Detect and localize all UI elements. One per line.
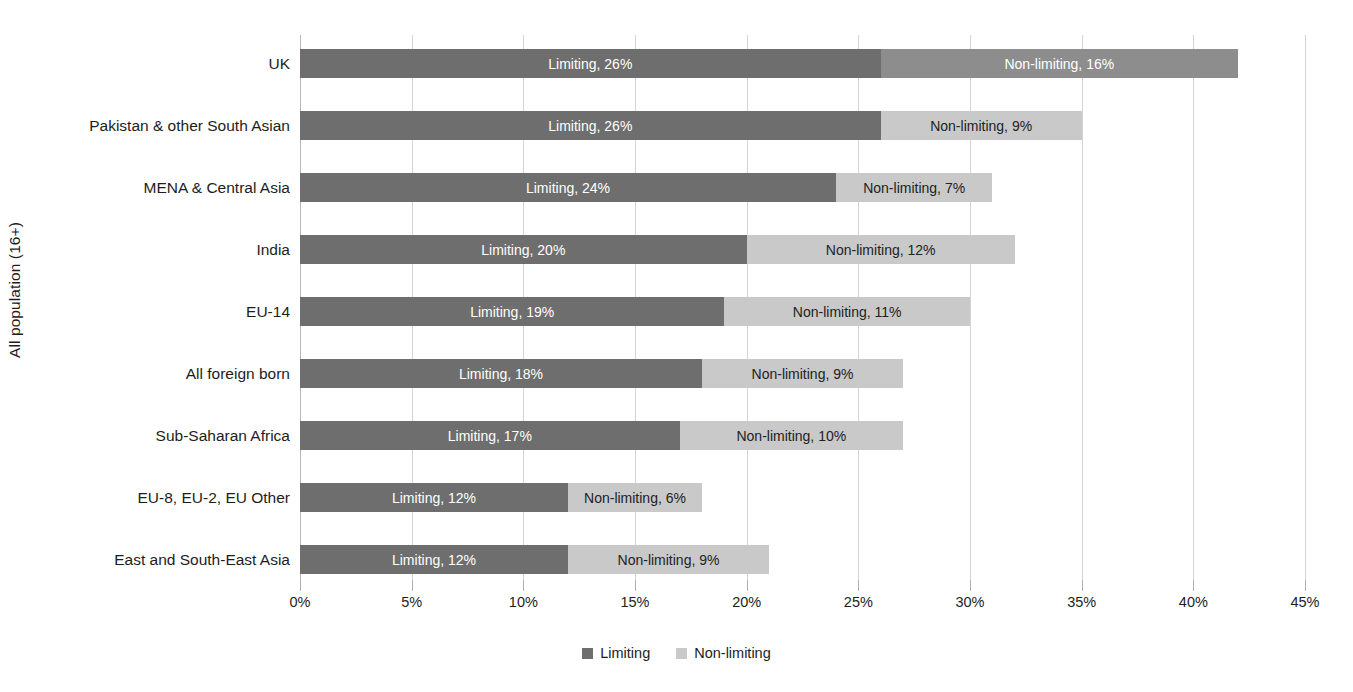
bar-segment-limiting[interactable]: Limiting, 17%	[300, 421, 680, 450]
bar-segment-non-limiting[interactable]: Non-limiting, 11%	[724, 297, 970, 326]
bar-row: Limiting, 26%Non-limiting, 9%	[300, 111, 1305, 140]
stacked-bar-chart: All population (16+) Limiting, 26%Non-li…	[0, 0, 1353, 692]
category-label-india: India	[256, 235, 290, 264]
x-axis-tick-label: 45%	[1290, 594, 1319, 610]
bar-segment-non-limiting[interactable]: Non-limiting, 9%	[568, 545, 769, 574]
bar-segment-limiting[interactable]: Limiting, 26%	[300, 111, 881, 140]
legend-swatch-icon	[676, 648, 687, 659]
category-label-all-foreign-born: All foreign born	[186, 359, 290, 388]
category-label-sub-saharan-africa: Sub-Saharan Africa	[156, 421, 290, 450]
y-axis-title-text: All population (16+)	[6, 222, 24, 358]
x-axis-tick-label: 15%	[620, 594, 649, 610]
x-axis-tick-label: 0%	[290, 594, 311, 610]
x-axis-tick-label: 35%	[1067, 594, 1096, 610]
category-label-eu-14: EU-14	[246, 297, 290, 326]
category-label-mena-central-asia: MENA & Central Asia	[144, 173, 290, 202]
gridline	[1305, 35, 1306, 580]
x-axis-tick-label: 40%	[1179, 594, 1208, 610]
category-label-eu-8-eu-2-eu-other: EU-8, EU-2, EU Other	[138, 483, 290, 512]
x-axis-tick-label: 30%	[955, 594, 984, 610]
plot-area: Limiting, 26%Non-limiting, 16%Limiting, …	[300, 35, 1305, 580]
bar-segment-limiting[interactable]: Limiting, 19%	[300, 297, 724, 326]
bar-segment-limiting[interactable]: Limiting, 12%	[300, 545, 568, 574]
bar-row: Limiting, 24%Non-limiting, 7%	[300, 173, 1305, 202]
legend-label: Limiting	[600, 645, 650, 661]
bar-segment-non-limiting[interactable]: Non-limiting, 7%	[836, 173, 992, 202]
bar-segment-limiting[interactable]: Limiting, 20%	[300, 235, 747, 264]
x-axis-tick	[523, 580, 524, 591]
legend-item-non-limiting[interactable]: Non-limiting	[676, 645, 771, 661]
bar-segment-limiting[interactable]: Limiting, 18%	[300, 359, 702, 388]
x-axis-tick	[970, 580, 971, 591]
bar-row: Limiting, 12%Non-limiting, 6%	[300, 483, 1305, 512]
x-axis-tick	[1305, 580, 1306, 591]
x-axis-tick	[1193, 580, 1194, 591]
x-axis-tick-label: 5%	[401, 594, 422, 610]
bar-segment-non-limiting[interactable]: Non-limiting, 6%	[568, 483, 702, 512]
x-axis-tick	[635, 580, 636, 591]
x-axis-tick	[412, 580, 413, 591]
bar-segment-limiting[interactable]: Limiting, 12%	[300, 483, 568, 512]
legend-item-limiting[interactable]: Limiting	[582, 645, 650, 661]
x-axis-tick	[300, 580, 301, 591]
category-label-pakistan-other-south-asian: Pakistan & other South Asian	[89, 111, 290, 140]
bar-segment-non-limiting[interactable]: Non-limiting, 9%	[881, 111, 1082, 140]
bar-row: Limiting, 26%Non-limiting, 16%	[300, 49, 1305, 78]
bar-segment-limiting[interactable]: Limiting, 26%	[300, 49, 881, 78]
category-label-east-and-south-east-asia: East and South-East Asia	[114, 545, 290, 574]
bar-segment-limiting[interactable]: Limiting, 24%	[300, 173, 836, 202]
x-axis-tick-label: 25%	[844, 594, 873, 610]
y-axis-title: All population (16+)	[0, 0, 30, 580]
legend-label: Non-limiting	[694, 645, 771, 661]
bar-row: Limiting, 18%Non-limiting, 9%	[300, 359, 1305, 388]
bar-segment-non-limiting[interactable]: Non-limiting, 9%	[702, 359, 903, 388]
bar-row: Limiting, 12%Non-limiting, 9%	[300, 545, 1305, 574]
legend: LimitingNon-limiting	[0, 645, 1353, 661]
x-axis-tick	[858, 580, 859, 591]
bar-row: Limiting, 20%Non-limiting, 12%	[300, 235, 1305, 264]
x-axis-tick	[747, 580, 748, 591]
bar-segment-non-limiting[interactable]: Non-limiting, 16%	[881, 49, 1238, 78]
x-axis-tick-label: 20%	[732, 594, 761, 610]
bar-segment-non-limiting[interactable]: Non-limiting, 12%	[747, 235, 1015, 264]
bar-row: Limiting, 19%Non-limiting, 11%	[300, 297, 1305, 326]
bar-segment-non-limiting[interactable]: Non-limiting, 10%	[680, 421, 903, 450]
x-axis-tick-label: 10%	[509, 594, 538, 610]
legend-swatch-icon	[582, 648, 593, 659]
x-axis-tick	[1082, 580, 1083, 591]
category-label-uk: UK	[268, 49, 290, 78]
bar-row: Limiting, 17%Non-limiting, 10%	[300, 421, 1305, 450]
